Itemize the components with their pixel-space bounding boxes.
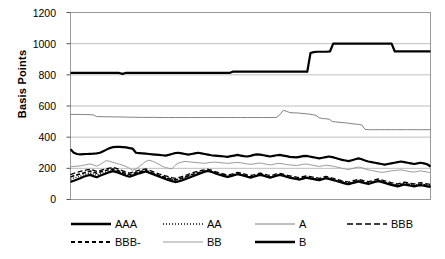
legend-item-bbb[interactable]: BBB [346,218,438,230]
tick-marks [67,13,71,200]
legend-item-bbb[interactable]: BBB- [70,236,162,248]
series-line-b [71,44,431,74]
legend-label: BB [207,236,222,248]
legend-item-b[interactable]: B [254,236,346,248]
legend-swatch-icon [254,236,296,248]
legend-label: BBB- [115,236,141,248]
legend-item-a[interactable]: A [254,218,346,230]
series-line-a [71,110,431,129]
legend-item-aaa[interactable]: AAA [70,218,162,230]
plot-area [0,0,445,215]
series-group [71,44,431,187]
legend-row-1: AAAAAABBB [70,215,440,233]
chart-legend: AAAAAABBB BBB-BBB [70,215,440,255]
legend-swatch-icon [254,218,296,230]
legend-row-2: BBB-BBB [70,233,440,251]
legend-item-bb[interactable]: BB [162,236,254,248]
legend-label: AAA [115,218,137,230]
legend-swatch-icon [70,236,112,248]
legend-swatch-icon [162,218,204,230]
legend-swatch-icon [162,236,204,248]
gridlines [71,13,431,169]
legend-label: BBB [391,218,413,230]
legend-label: B [299,236,306,248]
legend-swatch-icon [70,218,112,230]
legend-item-aa[interactable]: AA [162,218,254,230]
series-line-aaa-upper [71,147,431,167]
legend-swatch-icon [346,218,388,230]
legend-label: A [299,218,306,230]
legend-label: AA [207,218,222,230]
chart-root: Basis Points 1200 1000 800 600 400 200 0… [0,0,445,259]
